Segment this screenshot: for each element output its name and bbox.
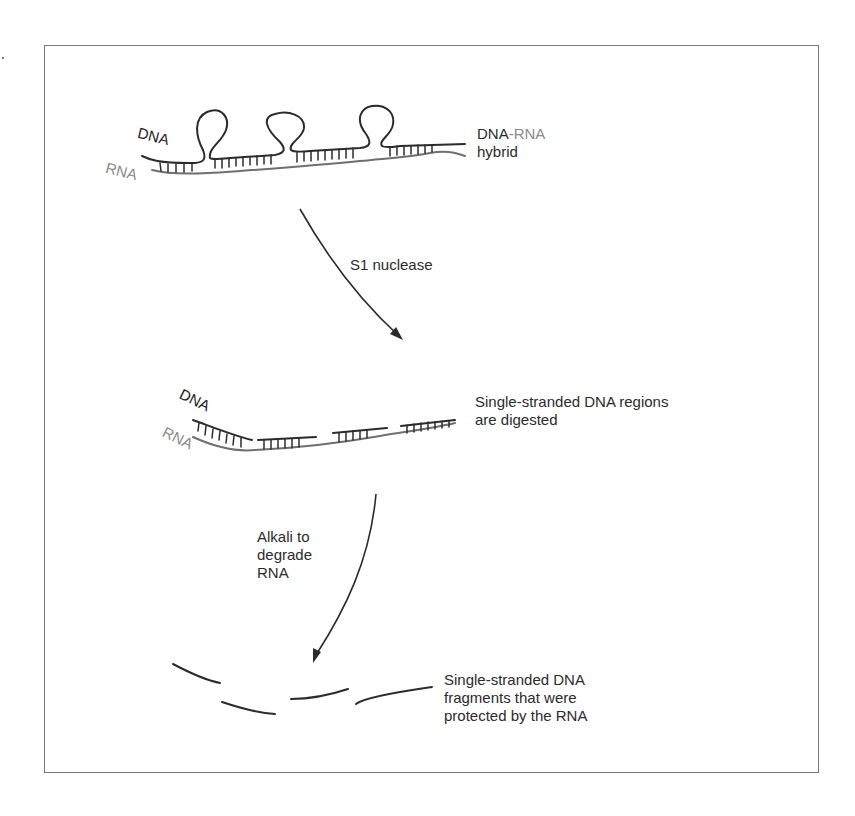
dna-segment-1 xyxy=(193,420,252,440)
dna-fragments xyxy=(173,664,432,714)
alkali-label-line2: degrade xyxy=(257,546,312,563)
alkali-label-line3: RNA xyxy=(257,564,289,581)
digested-caption: Single-stranded DNA regions are digested xyxy=(475,393,668,429)
rna-strand-2 xyxy=(193,423,455,450)
base-pairs-1 xyxy=(160,163,192,172)
base-pairs-3 xyxy=(297,148,353,162)
fragment-2 xyxy=(222,702,275,714)
digested-caption-line1: Single-stranded DNA regions xyxy=(475,393,668,410)
hybrid-caption: DNA-RNA hybrid xyxy=(477,125,545,161)
fragment-4 xyxy=(356,687,432,704)
alkali-label: Alkali to degrade RNA xyxy=(257,528,312,582)
diagram-artwork xyxy=(0,0,855,816)
digested-caption-line2: are digested xyxy=(475,411,558,428)
dna-segment-2 xyxy=(258,437,316,440)
fragments-caption: Single-stranded DNA fragments that were … xyxy=(444,671,587,725)
alkali-label-line1: Alkali to xyxy=(257,528,310,545)
hybrid-caption-rna: -RNA xyxy=(509,125,546,142)
fragment-1 xyxy=(173,664,220,683)
base-pairs-2 xyxy=(215,155,271,168)
hybrid-caption-dna: DNA xyxy=(477,125,509,142)
fragments-caption-line3: protected by the RNA xyxy=(444,707,587,724)
hybrid-caption-line2: hybrid xyxy=(477,143,518,160)
arrow-s1-nuclease xyxy=(300,209,403,340)
fragment-3 xyxy=(291,689,348,699)
s1-nuclease-label: S1 nuclease xyxy=(350,256,433,274)
arrow-alkali xyxy=(313,494,376,663)
fragments-caption-line1: Single-stranded DNA xyxy=(444,671,585,688)
fragments-caption-line2: fragments that were xyxy=(444,689,577,706)
hybrid-structure xyxy=(142,106,465,174)
digested-structure xyxy=(193,420,455,450)
